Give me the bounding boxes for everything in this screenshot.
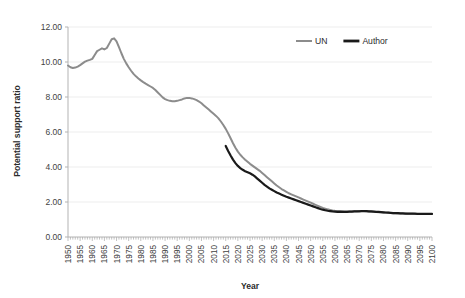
x-tick-label: 2085 (392, 245, 401, 264)
legend-label-author: Author (362, 36, 387, 46)
y-tick-label: 10.00 (41, 57, 63, 67)
y-tick-labels-group: 0.002.004.006.008.0010.0012.00 (41, 22, 63, 242)
x-tick-label: 1960 (88, 245, 97, 264)
x-tick-label: 1975 (125, 245, 134, 264)
x-tick-label: 1990 (161, 245, 170, 264)
x-tick-label: 2080 (379, 245, 388, 264)
potential-support-ratio-line-chart: 0.002.004.006.008.0010.0012.00 195019551… (0, 0, 465, 298)
x-minor-ticks-group (68, 237, 432, 241)
y-tick-label: 4.00 (45, 162, 62, 172)
x-tick-label: 2065 (343, 245, 352, 264)
x-tick-label: 2090 (404, 245, 413, 264)
x-tick-label: 2000 (185, 245, 194, 264)
chart-container: 0.002.004.006.008.0010.0012.00 195019551… (0, 0, 465, 298)
x-tick-label: 2075 (367, 245, 376, 264)
x-tick-label: 2045 (295, 245, 304, 264)
legend-group: UNAuthor (296, 36, 388, 46)
x-tick-label: 2005 (197, 245, 206, 264)
x-tick-label: 2030 (258, 245, 267, 264)
x-tick-label: 2015 (222, 245, 231, 264)
x-tick-label: 2050 (307, 245, 316, 264)
gridlines-group (68, 27, 432, 202)
x-tick-label: 1965 (100, 245, 109, 264)
x-tick-label: 1980 (137, 245, 146, 264)
x-tick-label: 2100 (428, 245, 437, 264)
x-axis-title: Year (241, 281, 260, 291)
y-tick-label: 0.00 (45, 232, 62, 242)
y-axis-title: Potential support ratio (12, 85, 22, 177)
x-tick-label: 2040 (282, 245, 291, 264)
x-tick-label: 1970 (113, 245, 122, 264)
legend-label-un: UN (315, 36, 327, 46)
x-tick-label: 2035 (270, 245, 279, 264)
x-tick-label: 2025 (246, 245, 255, 264)
x-tick-label: 2020 (234, 245, 243, 264)
x-tick-label: 1950 (64, 245, 73, 264)
x-tick-label: 2070 (355, 245, 364, 264)
series-line-un (68, 38, 432, 214)
x-tick-label: 2095 (416, 245, 425, 264)
y-tick-label: 12.00 (41, 22, 63, 32)
y-tick-label: 2.00 (45, 197, 62, 207)
x-tick-label: 1985 (149, 245, 158, 264)
x-tick-labels-group: 1950195519601965197019751980198519901995… (64, 245, 437, 264)
x-tick-label: 2055 (319, 245, 328, 264)
x-tick-label: 2060 (331, 245, 340, 264)
y-tick-label: 8.00 (45, 92, 62, 102)
series-line-author (226, 146, 432, 214)
y-tick-label: 6.00 (45, 127, 62, 137)
x-tick-label: 1955 (76, 245, 85, 264)
series-group (68, 38, 432, 214)
x-tick-label: 2010 (210, 245, 219, 264)
x-tick-label: 1995 (173, 245, 182, 264)
